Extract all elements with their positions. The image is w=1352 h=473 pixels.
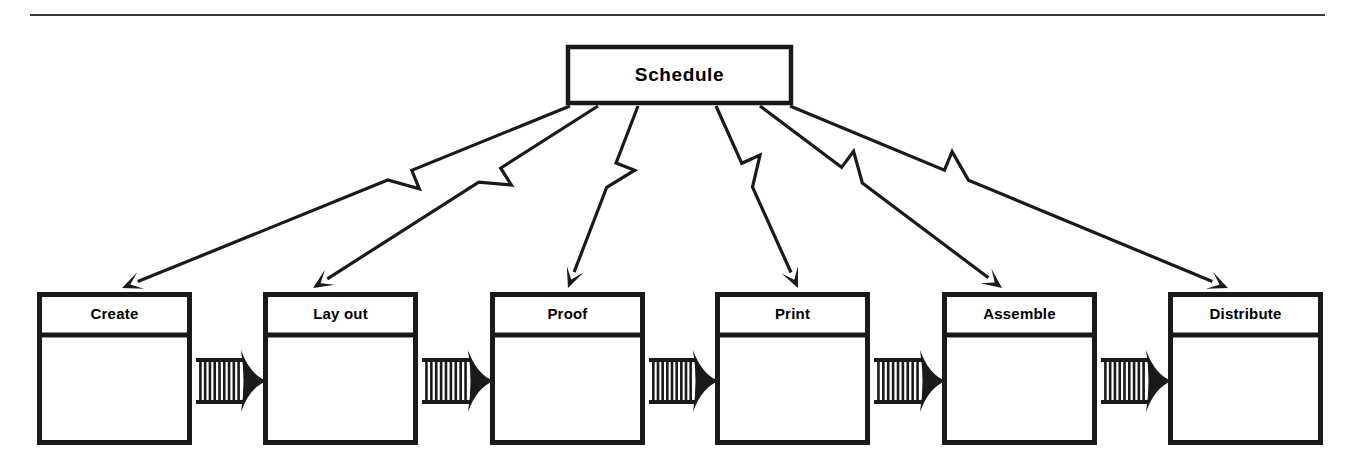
schedule-box[interactable] [568, 47, 791, 103]
stage-box-proof[interactable] [492, 295, 643, 443]
connector-create-to-layout [196, 350, 267, 412]
zigzag-schedule-to-assemble [760, 106, 1002, 288]
connector-assemble-to-distribute [1101, 350, 1172, 412]
stage-box-distribute[interactable] [1170, 295, 1321, 443]
zigzag-schedule-to-distribute [790, 106, 1228, 289]
zigzag-schedule-to-proof [567, 106, 638, 288]
diagram-graphics [0, 0, 1352, 473]
stage-box-assemble[interactable] [944, 295, 1095, 443]
connector-proof-to-print [649, 350, 719, 412]
diagram-canvas: ScheduleCreateLay outProofPrintAssembleD… [0, 0, 1352, 473]
stage-box-create[interactable] [39, 295, 190, 443]
connector-print-to-assemble [874, 350, 946, 412]
zigzag-arrowhead [981, 269, 1002, 288]
zigzag-schedule-to-layout [313, 106, 598, 288]
stage-box-print[interactable] [717, 295, 868, 443]
stage-box-lay-out[interactable] [265, 295, 416, 443]
zigzag-schedule-to-print [716, 106, 798, 288]
zigzag-schedule-to-create [122, 106, 570, 289]
connector-layout-to-proof [422, 350, 494, 412]
zigzag-arrowhead [313, 270, 335, 288]
